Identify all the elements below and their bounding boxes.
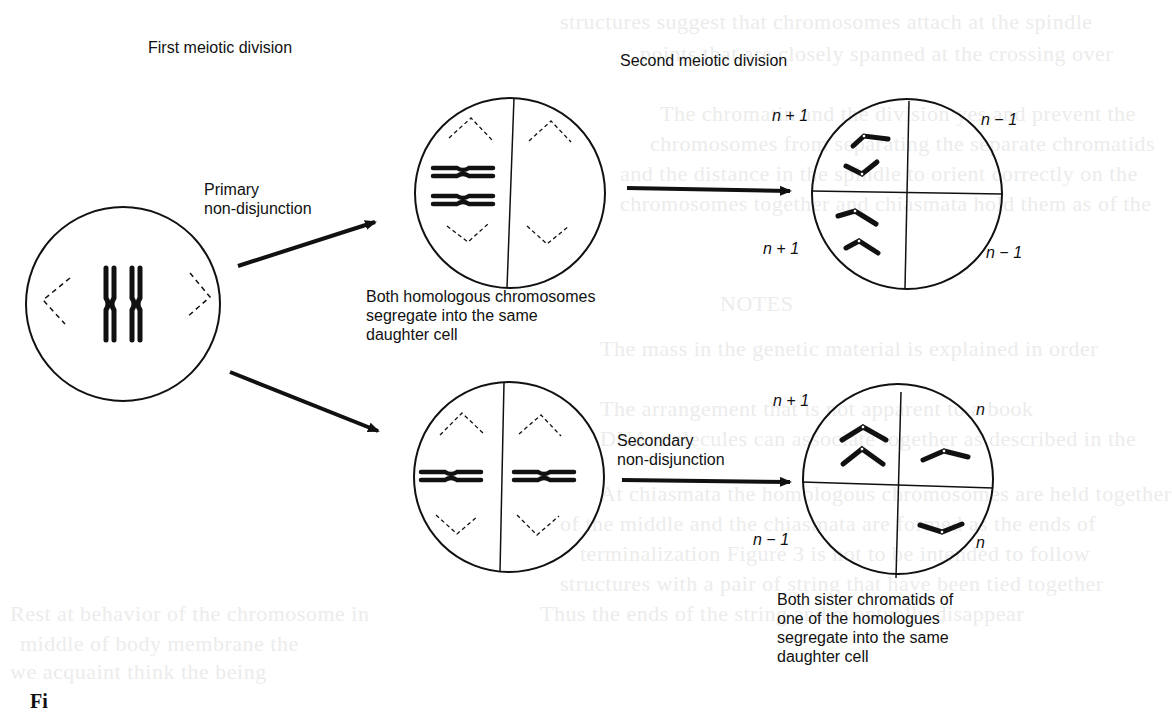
secondary-first-division-cell [414,382,604,572]
secondary-non-disjunction-label: Secondary non-disjunction [617,431,725,469]
primary-first-division-cell [415,98,605,288]
homologous-chromosome-icon [132,268,140,340]
ploidy-label-primary-bottom-right: n − 1 [986,244,1022,262]
chromosome-icon [433,168,493,176]
sister-chromatids-caption: Both sister chromatids of one of the hom… [777,590,953,666]
ploidy-label-primary-top-left: n + 1 [772,107,808,125]
chromosome-icon [514,472,574,480]
primary-non-disjunction-label: Primary non-disjunction [204,180,312,218]
ploidy-label-secondary-top-right: n [976,401,985,419]
ploidy-label-primary-bottom-left: n + 1 [763,240,799,258]
homologous-caption: Both homologous chromosomes segregate in… [366,287,595,344]
secondary-arrow [230,372,378,431]
homologous-chromosome-icon [106,268,114,340]
parent-cell [26,207,220,401]
ploidy-label-secondary-bottom-left: n − 1 [753,531,789,549]
chromosome-icon [433,196,493,204]
ploidy-label-secondary-bottom-right: n [976,534,985,552]
ploidy-label-primary-top-right: n − 1 [981,111,1017,129]
secondary-gamete-cell [802,384,993,578]
second-division-arrow-top [627,188,790,191]
figure-caption-fragment: Fi [30,690,48,712]
primary-gamete-cell [811,99,1002,289]
primary-arrow [238,222,375,266]
ploidy-label-secondary-top-left: n + 1 [773,392,809,410]
chromosome-icon [421,472,481,480]
spindle-pole-left [43,278,70,324]
spindle-pole-right [186,273,210,318]
second-division-arrow-bottom [622,480,790,482]
second-division-heading: Second meiotic division [620,51,787,70]
first-division-heading: First meiotic division [148,38,292,57]
